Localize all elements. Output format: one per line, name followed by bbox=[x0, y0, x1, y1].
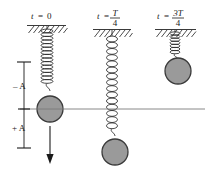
panel-tT4: t = T 4 bbox=[93, 8, 133, 165]
amplitude-scale: – A + A bbox=[12, 62, 31, 148]
time-label-3-numerator: 3T bbox=[172, 8, 184, 18]
mass-ball-2 bbox=[102, 139, 128, 165]
velocity-arrow-down bbox=[46, 126, 53, 164]
time-label-3-prefix: t bbox=[157, 11, 160, 21]
time-label-3-equals: = bbox=[164, 11, 169, 21]
time-label-2-equals: = bbox=[104, 11, 109, 21]
time-label-1-prefix: t bbox=[31, 11, 34, 21]
amplitude-label-plus: + A bbox=[12, 123, 26, 133]
spring-2 bbox=[107, 30, 118, 136]
physics-figure: t = 0 bbox=[0, 0, 205, 172]
time-label-2-prefix: t bbox=[97, 11, 100, 21]
panel-t3T4: t = 3T 4 bbox=[155, 8, 196, 84]
amplitude-label-minus: – A bbox=[12, 81, 26, 91]
ceiling-support-3 bbox=[155, 30, 196, 38]
panel-t0: t = 0 bbox=[27, 11, 68, 164]
time-label-2-denominator: 4 bbox=[113, 18, 118, 28]
figure-canvas: t = 0 bbox=[0, 0, 205, 172]
time-label-1-value: 0 bbox=[47, 11, 52, 21]
time-label-1-equals: = bbox=[38, 11, 43, 21]
time-label-2-numerator: T bbox=[112, 8, 118, 18]
time-label-3-denominator: 4 bbox=[176, 18, 181, 28]
spring-1 bbox=[41, 26, 53, 91]
mass-ball-3 bbox=[165, 58, 191, 84]
